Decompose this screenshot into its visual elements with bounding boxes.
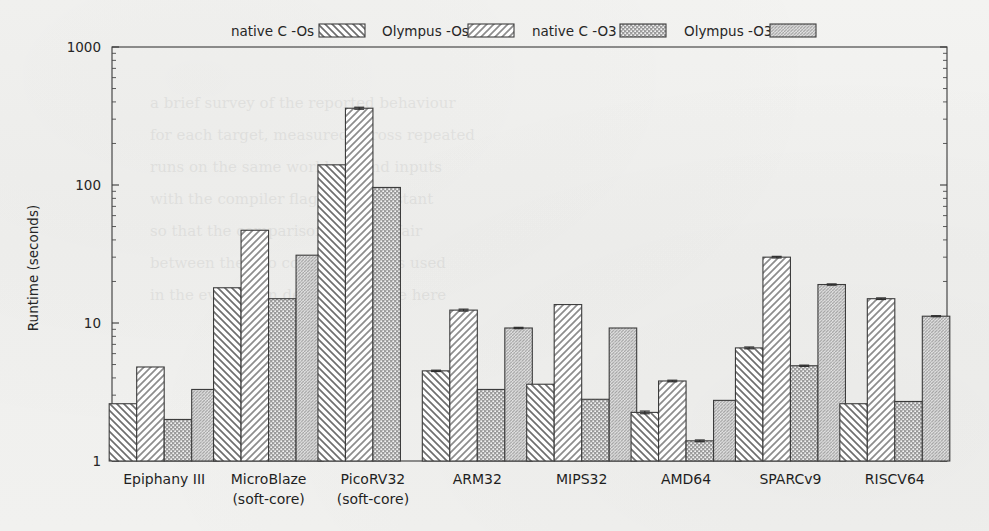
x-category-label: MIPS32: [556, 471, 607, 487]
bar-0-0: [109, 404, 137, 461]
x-category-label: Epiphany III: [123, 471, 205, 487]
benchmark-runtime-chart: a brief survey of the reported behaviour…: [0, 0, 989, 531]
chart-legend: native C -Os Olympus -Os native C -O3 Ol…: [231, 23, 816, 39]
bar-7-1: [867, 299, 895, 461]
bar-5-1: [659, 381, 687, 461]
y-tick-label: 1: [92, 453, 101, 469]
bar-2-2: [373, 187, 401, 461]
y-axis-title: Runtime (seconds): [25, 205, 41, 331]
legend-swatch-native-c-os: [319, 24, 365, 37]
legend-item-3: Olympus -O3: [684, 23, 816, 39]
bar-3-2: [477, 389, 505, 461]
bar-0-2: [164, 419, 192, 461]
bar-7-3: [922, 316, 950, 461]
bar-5-2: [686, 441, 714, 461]
x-category-label: (soft-core): [337, 491, 409, 507]
bar-4-2: [582, 399, 610, 461]
bar-1-2: [269, 299, 297, 461]
bar-4-0: [527, 384, 555, 461]
legend-label-3: Olympus -O3: [684, 23, 772, 39]
x-category-label: SPARCv9: [759, 471, 821, 487]
bar-6-1: [763, 257, 791, 461]
bar-2-0: [318, 165, 346, 461]
legend-label-2: native C -O3: [532, 23, 617, 39]
x-category-label: MicroBlaze: [231, 471, 307, 487]
y-tick-label: 1000: [67, 39, 101, 55]
bar-7-0: [840, 404, 868, 461]
bar-2-1: [345, 108, 373, 461]
bar-5-0: [631, 412, 659, 461]
legend-item-0: native C -Os: [231, 23, 365, 39]
x-category-label: RISCV64: [865, 471, 925, 487]
legend-swatch-olympus-o3: [770, 24, 816, 37]
x-category-label: (soft-core): [232, 491, 304, 507]
legend-label-0: native C -Os: [231, 23, 314, 39]
legend-swatch-olympus-os: [468, 24, 514, 37]
x-category-label: PicoRV32: [341, 471, 406, 487]
svg-text:a brief survey of the reported: a brief survey of the reported behaviour: [150, 94, 456, 112]
legend-swatch-native-c-o3: [620, 24, 666, 37]
bar-7-2: [895, 401, 923, 461]
bar-4-1: [554, 305, 582, 461]
x-category-label: AMD64: [661, 471, 711, 487]
bar-0-1: [137, 367, 165, 461]
bar-1-1: [241, 230, 269, 461]
svg-text:runs on the same workload and: runs on the same workload and inputs: [150, 158, 442, 176]
svg-text:for each target, measured acro: for each target, measured across repeate…: [150, 126, 475, 144]
bar-3-1: [450, 310, 478, 461]
legend-item-1: Olympus -Os: [382, 23, 514, 39]
bar-6-0: [735, 348, 763, 461]
y-tick-label: 10: [84, 315, 101, 331]
x-category-label: ARM32: [453, 471, 502, 487]
y-tick-label: 100: [75, 177, 101, 193]
bar-3-0: [422, 371, 450, 461]
bar-1-0: [214, 288, 242, 461]
legend-label-1: Olympus -Os: [382, 23, 469, 39]
bar-6-2: [790, 366, 818, 461]
legend-item-2: native C -O3: [532, 23, 666, 39]
